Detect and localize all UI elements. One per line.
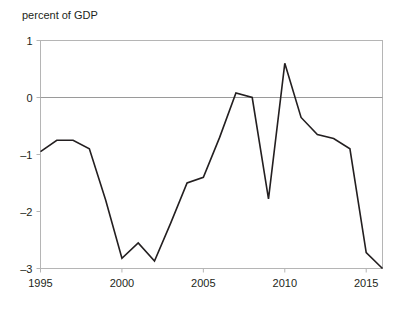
data-series-line [41,63,383,268]
x-axis-tick-label: 2000 [102,277,142,289]
axis-ticks [37,41,367,273]
y-axis-tick-label: 1 [7,35,33,47]
y-axis-tick-label: –3 [7,263,33,275]
x-axis-tick-label: 2010 [265,277,305,289]
x-axis-tick-label: 2005 [183,277,223,289]
y-axis-tick-label: –2 [7,206,33,218]
x-axis-tick-label: 1995 [21,277,61,289]
chart-container: percent of GDP 10–1–2–3 1995200020052010… [0,0,407,312]
x-axis-tick-label: 2015 [346,277,386,289]
line-chart-plot [0,0,407,312]
y-axis-tick-label: 0 [7,92,33,104]
y-axis-tick-label: –1 [7,149,33,161]
